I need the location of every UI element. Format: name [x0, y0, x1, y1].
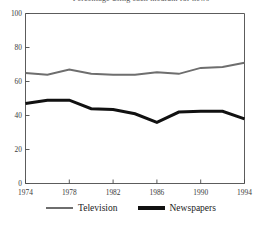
series-line-television — [26, 63, 245, 75]
legend-label-newspapers: Newspapers — [170, 203, 216, 213]
series-line-newspapers — [26, 100, 245, 122]
chart-legend: TelevisionNewspapers — [0, 203, 262, 213]
x-tick-label: 1982 — [106, 188, 121, 197]
x-tick-label: 1978 — [62, 188, 77, 197]
x-tick-label: 1986 — [150, 188, 165, 197]
data-series-group — [26, 63, 245, 123]
x-tick-label: 1990 — [193, 188, 208, 197]
legend-item-television[interactable]: Television — [46, 203, 117, 213]
legend-swatch-television — [46, 207, 73, 210]
plot-area: 020406080100 197419781982198619901994 — [0, 0, 262, 226]
legend-item-newspapers[interactable]: Newspapers — [138, 203, 216, 213]
y-axis-ticks: 020406080100 — [11, 9, 30, 188]
axis-frame — [26, 14, 245, 184]
y-tick-label: 60 — [15, 77, 23, 86]
y-tick-label: 80 — [15, 43, 23, 52]
x-axis-ticks: 197419781982198619901994 — [18, 180, 252, 197]
y-tick-label: 20 — [15, 145, 23, 154]
legend-label-television: Television — [78, 203, 117, 213]
line-chart-figure: Percentage using each medium for news 02… — [0, 0, 262, 226]
x-tick-label: 1974 — [18, 188, 33, 197]
y-tick-label: 100 — [11, 9, 22, 18]
legend-swatch-newspapers — [138, 206, 165, 210]
y-tick-label: 40 — [15, 111, 23, 120]
x-tick-label: 1994 — [237, 188, 252, 197]
